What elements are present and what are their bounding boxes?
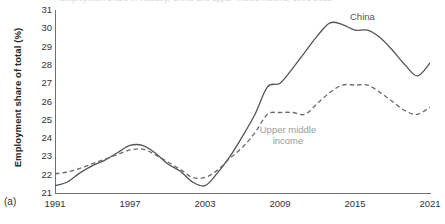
y-tick-24: 24	[30, 133, 52, 143]
x-tick-2021: 2021	[400, 198, 445, 209]
y-tick-31: 31	[30, 5, 52, 15]
y-tick-27: 27	[30, 78, 52, 88]
upper-middle-income-line-path	[55, 84, 430, 178]
plot-area	[55, 10, 430, 193]
y-tick-22: 22	[30, 170, 52, 180]
china-line-path	[55, 22, 430, 186]
series-label-umi-line2: income	[246, 135, 330, 146]
series-label-umi-line1: Upper middle	[246, 124, 330, 135]
y-tick-25: 25	[30, 115, 52, 125]
y-tick-26: 26	[30, 97, 52, 107]
series-label-china: China	[350, 11, 375, 22]
x-tick-1991: 1991	[25, 198, 85, 209]
x-axis-line	[55, 193, 431, 194]
x-tick-1997: 1997	[100, 198, 160, 209]
clipped-chart-title: Employment share in industry, China and …	[60, 0, 430, 3]
series-lines	[55, 10, 430, 193]
series-label-upper-middle-income: Upper middle income	[246, 124, 330, 146]
y-tick-21: 21	[30, 188, 52, 198]
y-tick-30: 30	[30, 23, 52, 33]
y-axis-tick-labels: 2122232425262728293031	[28, 0, 52, 224]
y-tick-28: 28	[30, 60, 52, 70]
y-axis-label: Employment share of total (%)	[12, 3, 23, 193]
y-tick-23: 23	[30, 151, 52, 161]
y-tick-29: 29	[30, 42, 52, 52]
x-tick-2003: 2003	[175, 198, 235, 209]
x-tick-2009: 2009	[250, 198, 310, 209]
panel-label: (a)	[4, 196, 16, 207]
x-tick-2015: 2015	[325, 198, 385, 209]
